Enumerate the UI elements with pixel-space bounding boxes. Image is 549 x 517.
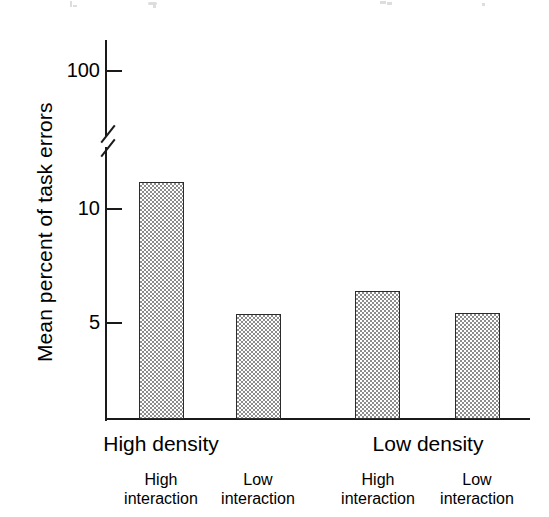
- sub-label-3-line2: interaction: [323, 489, 433, 508]
- sub-label-1-line1: High: [111, 470, 211, 489]
- y-axis-title: Mean percent of task errors: [30, 0, 60, 362]
- sub-label-2-line1: Low: [208, 470, 308, 489]
- y-axis-break-marker: [98, 126, 116, 158]
- bar-low-density-high-interaction: [355, 291, 400, 419]
- group-label-low-density: Low density: [368, 432, 488, 456]
- scan-artifact-strip: [30, 0, 500, 9]
- sub-label-4-line1: Low: [427, 470, 527, 489]
- y-tick-100: [107, 70, 122, 72]
- sub-label-2-line2: interaction: [203, 489, 313, 508]
- y-tick-5: [107, 322, 122, 324]
- y-tick-10: [107, 208, 122, 210]
- sub-label-3-line1: High: [328, 470, 428, 489]
- group-label-high-density: High density: [101, 432, 221, 456]
- y-axis-line: [105, 40, 107, 421]
- bar-high-density-high-interaction: [139, 182, 184, 419]
- bar-low-density-low-interaction: [455, 313, 500, 419]
- sub-label-4-line2: interaction: [422, 489, 532, 508]
- figure-bar-chart: 100 10 5 Mean percent of task errors Hig…: [0, 0, 549, 517]
- sub-label-1-line2: interaction: [106, 489, 216, 508]
- bar-high-density-low-interaction: [236, 314, 281, 419]
